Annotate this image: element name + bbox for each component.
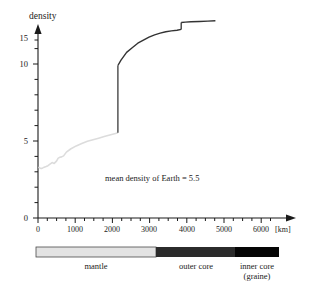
layer-label-inner-core: inner core xyxy=(217,261,297,271)
mean-density-annotation: mean density of Earth = 5.5 xyxy=(105,174,200,183)
curve-outer-core xyxy=(118,29,181,65)
x-tick-4000: 4000 xyxy=(170,226,204,234)
y-tick-15: 15 xyxy=(14,34,28,43)
layer-label-inner-core-sub: (graine) xyxy=(217,271,297,281)
x-tick-3000: 3000 xyxy=(132,226,166,234)
x-tick-5000: 5000 xyxy=(207,226,241,234)
x-tick-0: 0 xyxy=(21,226,55,234)
x-axis xyxy=(38,214,296,223)
y-tick-0: 0 xyxy=(14,214,28,223)
curve-mantle xyxy=(38,133,118,169)
y-axis-title: density xyxy=(29,12,56,22)
x-tick-6000: 6000 xyxy=(244,226,278,234)
layer-segment-outer-core xyxy=(156,247,235,257)
layer-segment-mantle xyxy=(36,247,156,257)
y-axis xyxy=(33,24,42,218)
y-tick-5: 5 xyxy=(14,137,28,146)
density-figure: density 0 5 10 15 0 1000 2000 3000 4000 … xyxy=(0,0,310,290)
layer-segment-inner-core xyxy=(235,247,279,257)
x-axis-unit: [km] xyxy=(275,226,291,234)
x-tick-2000: 2000 xyxy=(95,226,129,234)
x-tick-1000: 1000 xyxy=(58,226,92,234)
curve-inner-core xyxy=(181,21,215,23)
layer-label-mantle: mantle xyxy=(56,261,136,271)
y-tick-10: 10 xyxy=(14,60,28,69)
